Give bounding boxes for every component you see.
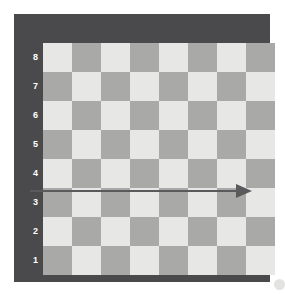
board-square-e1[interactable] [159,246,188,275]
board-square-d5[interactable] [130,130,159,159]
board-square-f7[interactable] [188,72,217,101]
rank-label-3: 3 [28,188,43,217]
rank-label-7: 7 [28,72,43,101]
board-square-g4[interactable] [217,159,246,188]
board-square-e8[interactable] [159,43,188,72]
board-square-g7[interactable] [217,72,246,101]
board-square-f5[interactable] [188,130,217,159]
board-square-e6[interactable] [159,101,188,130]
board-grid [43,43,275,275]
rank-label-2: 2 [28,217,43,246]
file-label-a: A [43,275,72,294]
board-square-d4[interactable] [130,159,159,188]
board-square-f6[interactable] [188,101,217,130]
board-square-e4[interactable] [159,159,188,188]
board-square-g2[interactable] [217,217,246,246]
board-square-b7[interactable] [72,72,101,101]
board-square-a1[interactable] [43,246,72,275]
board-square-a7[interactable] [43,72,72,101]
file-label-b: B [72,275,101,294]
board-square-c2[interactable] [101,217,130,246]
file-label-f: F [188,275,217,294]
board-square-a2[interactable] [43,217,72,246]
board-square-d6[interactable] [130,101,159,130]
board-square-g5[interactable] [217,130,246,159]
corner-dot-marker [274,279,285,290]
board-square-a4[interactable] [43,159,72,188]
chessboard-figure: 87654321 ABCDEFGH [0,0,285,294]
rank-label-6: 6 [28,101,43,130]
board-square-b2[interactable] [72,217,101,246]
board-square-c8[interactable] [101,43,130,72]
board-square-e7[interactable] [159,72,188,101]
board-square-h7[interactable] [246,72,275,101]
board-square-f1[interactable] [188,246,217,275]
board-square-a5[interactable] [43,130,72,159]
rank-label-1: 1 [28,246,43,275]
file-label-e: E [159,275,188,294]
board-square-e3[interactable] [159,188,188,217]
rank-label-8: 8 [28,43,43,72]
board-square-c4[interactable] [101,159,130,188]
board-square-h5[interactable] [246,130,275,159]
board-square-h2[interactable] [246,217,275,246]
rank-label-4: 4 [28,159,43,188]
board-square-f3[interactable] [188,188,217,217]
file-label-d: D [130,275,159,294]
board-square-e2[interactable] [159,217,188,246]
board-square-a3[interactable] [43,188,72,217]
board-square-c7[interactable] [101,72,130,101]
file-label-c: C [101,275,130,294]
board-square-h3[interactable] [246,188,275,217]
board-square-b6[interactable] [72,101,101,130]
board-square-d7[interactable] [130,72,159,101]
board-square-h6[interactable] [246,101,275,130]
board-square-g6[interactable] [217,101,246,130]
rank-label-5: 5 [28,130,43,159]
file-label-row: ABCDEFGH [43,275,275,294]
rank-label-column: 87654321 [28,43,43,275]
board-square-e5[interactable] [159,130,188,159]
board-square-c3[interactable] [101,188,130,217]
board-square-d2[interactable] [130,217,159,246]
board-square-b4[interactable] [72,159,101,188]
file-label-h: H [246,275,275,294]
board-square-d3[interactable] [130,188,159,217]
board-square-a6[interactable] [43,101,72,130]
board-square-h4[interactable] [246,159,275,188]
board-frame: 87654321 ABCDEFGH [14,14,270,282]
board-square-c1[interactable] [101,246,130,275]
board-square-b1[interactable] [72,246,101,275]
board-square-h8[interactable] [246,43,275,72]
file-label-g: G [217,275,246,294]
board-square-c6[interactable] [101,101,130,130]
board-square-d8[interactable] [130,43,159,72]
board-square-g3[interactable] [217,188,246,217]
board-square-c5[interactable] [101,130,130,159]
board-square-f2[interactable] [188,217,217,246]
board-square-h1[interactable] [246,246,275,275]
board-square-b5[interactable] [72,130,101,159]
board-square-d1[interactable] [130,246,159,275]
board-square-g8[interactable] [217,43,246,72]
board-square-g1[interactable] [217,246,246,275]
board-square-b8[interactable] [72,43,101,72]
board-square-a8[interactable] [43,43,72,72]
board-square-f4[interactable] [188,159,217,188]
board-square-f8[interactable] [188,43,217,72]
board-square-b3[interactable] [72,188,101,217]
